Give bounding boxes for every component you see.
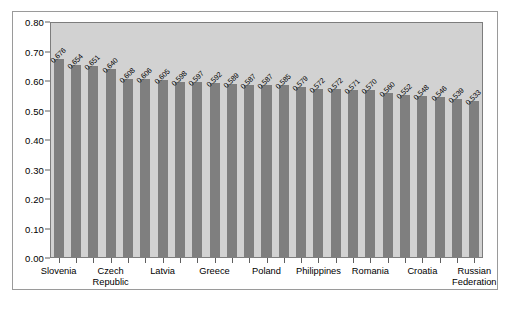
x-axis-tick-label-line: Republic <box>75 277 147 288</box>
x-axis-tick-label-line: Federation <box>438 277 510 288</box>
x-axis-tick-mark <box>405 258 406 263</box>
bar <box>192 82 202 258</box>
y-axis-tick-label: 0.70 <box>25 46 44 57</box>
x-axis-tick-mark <box>111 258 112 263</box>
bar <box>400 95 410 258</box>
y-axis-tick-label: 0.50 <box>25 105 44 116</box>
x-axis-tick-mark <box>284 258 285 263</box>
bar <box>175 82 185 258</box>
x-axis-tick-mark <box>457 258 458 263</box>
bar-value-label: 0.676 <box>48 45 67 64</box>
x-axis-tick-mark <box>93 258 94 263</box>
x-axis-tick-mark <box>267 258 268 263</box>
x-axis-tick-mark <box>163 258 164 263</box>
bar-value-label: 0.546 <box>429 84 448 103</box>
x-axis-tick-mark <box>76 258 77 263</box>
bar <box>227 84 237 258</box>
y-axis-tick-label: 0.40 <box>25 135 44 146</box>
y-axis-tick-label: 0.80 <box>25 17 44 28</box>
bar <box>435 97 445 258</box>
x-axis-tick-mark <box>336 258 337 263</box>
y-axis-tick-label: 0.20 <box>25 194 44 205</box>
x-axis-tick-label-line: Russian <box>438 266 510 277</box>
bar-chart-figure: 0.000.100.200.300.400.500.600.700.80 0.6… <box>0 0 518 311</box>
bar <box>106 69 116 258</box>
x-axis-tick-mark <box>197 258 198 263</box>
bar <box>210 83 220 258</box>
bar <box>54 59 64 258</box>
bar-value-label: 0.598 <box>170 68 189 87</box>
x-axis-tick-mark <box>353 258 354 263</box>
bar <box>452 99 462 258</box>
x-axis-tick-mark <box>422 258 423 263</box>
bar <box>279 85 289 258</box>
y-axis-tick-label: 0.00 <box>25 253 44 264</box>
x-axis-tick-label: RussianFederation <box>438 266 510 288</box>
bar <box>313 89 323 258</box>
bar <box>158 80 168 258</box>
x-axis-tick-mark <box>301 258 302 263</box>
x-axis-tick-mark <box>145 258 146 263</box>
bar <box>261 85 271 258</box>
bar <box>88 66 98 258</box>
bar-value-label: 0.560 <box>377 80 396 99</box>
bar-value-label: 0.605 <box>152 66 171 85</box>
x-axis-tick-mark <box>215 258 216 263</box>
bars-layer: 0.6760.6540.6510.6400.6080.6060.6050.598… <box>50 22 483 258</box>
bar <box>417 96 427 258</box>
x-axis-tick-mark <box>370 258 371 263</box>
x-axis-tick-mark <box>232 258 233 263</box>
x-axis-tick-mark <box>388 258 389 263</box>
x-axis-tick-mark <box>249 258 250 263</box>
bar <box>348 90 358 258</box>
x-axis-tick-mark <box>180 258 181 263</box>
bar-value-label: 0.571 <box>343 76 362 95</box>
bar <box>296 87 306 258</box>
bar <box>140 79 150 258</box>
y-axis: 0.000.100.200.300.400.500.600.700.80 <box>12 22 50 258</box>
bar <box>71 65 81 258</box>
bar <box>469 101 479 258</box>
y-axis-tick-label: 0.10 <box>25 223 44 234</box>
bar <box>244 85 254 258</box>
bar <box>365 90 375 258</box>
x-axis-tick-mark <box>59 258 60 263</box>
x-axis-tick-mark <box>318 258 319 263</box>
x-axis-tick-mark <box>440 258 441 263</box>
x-axis-tick-mark <box>128 258 129 263</box>
bar <box>123 79 133 258</box>
x-axis-tick-mark <box>474 258 475 263</box>
x-axis: SloveniaCzechRepublicLatviaGreecePolandP… <box>50 258 483 298</box>
y-axis-tick-label: 0.30 <box>25 164 44 175</box>
y-axis-tick-label: 0.60 <box>25 76 44 87</box>
bar-value-label: 0.608 <box>118 66 137 85</box>
bar <box>383 93 393 258</box>
bar <box>331 89 341 258</box>
